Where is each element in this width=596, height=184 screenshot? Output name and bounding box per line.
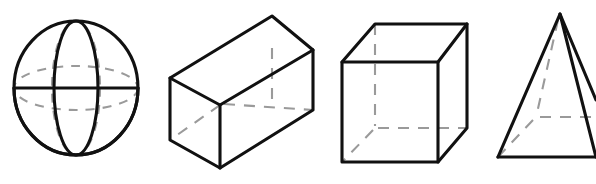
shape-sphere bbox=[14, 21, 138, 155]
cube-fill bbox=[342, 24, 467, 162]
pyramid-fill bbox=[498, 14, 596, 157]
geometric-solids-figure bbox=[0, 0, 596, 184]
shape-rectangular-prism bbox=[170, 16, 313, 168]
solids-drawing bbox=[0, 0, 596, 184]
shape-square-pyramid bbox=[498, 14, 596, 157]
shape-cube bbox=[342, 24, 467, 162]
